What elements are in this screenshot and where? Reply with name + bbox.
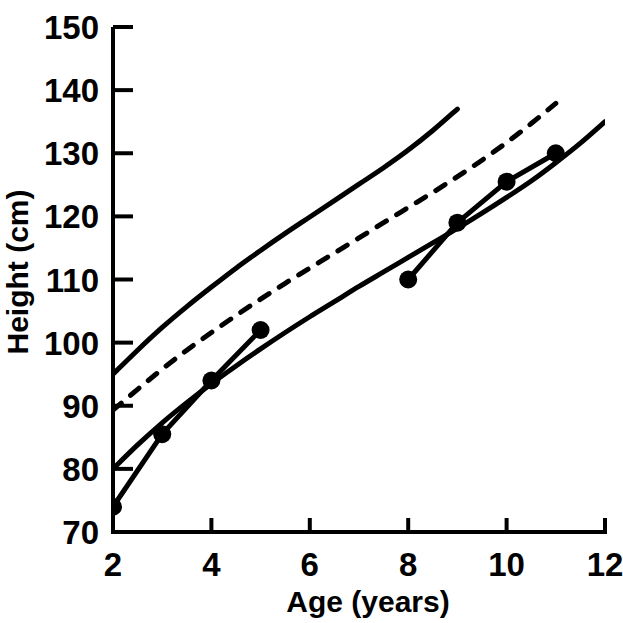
y-tick-label: 70 — [62, 514, 99, 551]
x-tick-label: 12 — [587, 546, 623, 583]
data-point-marker — [153, 425, 171, 443]
data-point-marker — [498, 173, 516, 191]
x-axis-title: Age (years) — [286, 585, 449, 618]
data-point-marker — [399, 271, 417, 289]
x-tick-label: 8 — [399, 546, 417, 583]
y-tick-label: 140 — [44, 72, 99, 109]
x-tick-label: 2 — [104, 546, 122, 583]
growth-chart-figure: 708090100110120130140150 24681012 Age (y… — [0, 0, 623, 623]
y-tick-label: 150 — [44, 9, 99, 46]
y-axis-title: Height (cm) — [1, 190, 34, 355]
y-tick-label: 120 — [44, 198, 99, 235]
y-tick-label: 130 — [44, 135, 99, 172]
y-tick-label: 80 — [62, 451, 99, 488]
y-tick-label: 110 — [46, 262, 99, 299]
x-tick-label: 10 — [488, 546, 525, 583]
y-tick-label: 90 — [62, 388, 99, 425]
x-tick-label: 4 — [202, 546, 221, 583]
data-point-marker — [252, 321, 270, 339]
y-tick-label: 100 — [44, 325, 99, 362]
data-point-marker — [547, 144, 565, 162]
data-point-marker — [448, 214, 466, 232]
x-tick-label: 6 — [301, 546, 319, 583]
height-for-age-chart: 708090100110120130140150 24681012 Age (y… — [0, 0, 623, 623]
data-point-marker — [202, 372, 220, 390]
